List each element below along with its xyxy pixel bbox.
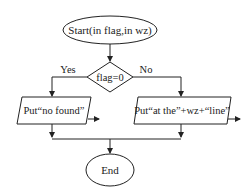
yes-label: Yes: [60, 64, 75, 75]
arrow-yes-branch: [52, 77, 87, 96]
arrow-no-branch: [133, 77, 181, 96]
start-node: Start(in flag,in wz): [63, 16, 157, 44]
output-at-line: Put“at the”+wz+“line”: [134, 97, 231, 124]
no-label: No: [140, 64, 153, 75]
end-label: End: [101, 164, 119, 176]
output-no-found-label: Put“no found”: [24, 105, 85, 116]
output-at-line-label: Put“at the”+wz+“line”: [134, 105, 230, 116]
decision-node: flag=0: [87, 62, 133, 92]
flowchart: Start(in flag,in wz) flag=0 Yes No Put“n…: [0, 0, 246, 195]
decision-label: flag=0: [96, 72, 124, 83]
output-no-found: Put“no found”: [17, 97, 91, 124]
end-node: End: [86, 154, 134, 186]
start-label: Start(in flag,in wz): [68, 24, 152, 37]
